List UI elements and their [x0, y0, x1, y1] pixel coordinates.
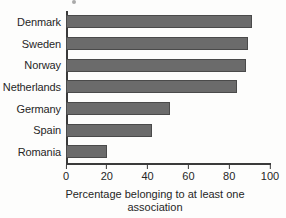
x-tick-mark: [229, 165, 230, 169]
bar-spain: [66, 124, 152, 137]
x-axis-title-line2: association: [40, 201, 270, 214]
x-tick-80: 80: [223, 165, 235, 182]
x-tick-20: 20: [101, 165, 113, 182]
x-tick-label: 60: [182, 170, 194, 182]
x-tick-label: 20: [101, 170, 113, 182]
x-axis-ticks: 0 20 40 60 80 100: [66, 165, 270, 185]
y-tick-label-norway: Norway: [24, 59, 61, 71]
bar-denmark: [66, 15, 252, 28]
scan-artifact: [72, 0, 76, 4]
bar-row-denmark: Denmark: [66, 11, 270, 33]
x-axis-title: Percentage belonging to at least one ass…: [40, 188, 270, 214]
x-tick-40: 40: [141, 165, 153, 182]
bar-romania: [66, 145, 107, 158]
y-tick-label-denmark: Denmark: [17, 16, 61, 28]
x-tick-label: 0: [63, 170, 69, 182]
y-tick-label-spain: Spain: [33, 124, 61, 136]
bar-row-netherlands: Netherlands: [66, 76, 270, 98]
bar-germany: [66, 102, 170, 115]
y-tick-label-romania: Romania: [18, 146, 61, 158]
bar-netherlands: [66, 80, 237, 93]
x-tick-mark: [106, 165, 107, 169]
y-tick-label-netherlands: Netherlands: [3, 81, 61, 93]
bar-row-sweden: Sweden: [66, 33, 270, 55]
plot-area: Denmark Sweden Norway Netherlands German…: [66, 11, 270, 163]
x-tick-mark: [188, 165, 189, 169]
x-tick-mark: [147, 165, 148, 169]
x-tick-mark: [269, 165, 270, 169]
bar-norway: [66, 59, 246, 72]
bar-rows: Denmark Sweden Norway Netherlands German…: [66, 11, 270, 163]
bar-sweden: [66, 37, 248, 50]
x-tick-label: 80: [223, 170, 235, 182]
bar-row-norway: Norway: [66, 54, 270, 76]
y-tick-label-germany: Germany: [16, 103, 61, 115]
bar-row-romania: Romania: [66, 141, 270, 163]
x-tick-60: 60: [182, 165, 194, 182]
y-tick-label-sweden: Sweden: [22, 38, 61, 50]
x-tick-0: 0: [63, 165, 69, 182]
bar-row-germany: Germany: [66, 98, 270, 120]
x-tick-100: 100: [261, 165, 279, 182]
x-tick-mark: [66, 165, 67, 169]
chart-figure: Denmark Sweden Norway Netherlands German…: [0, 0, 286, 218]
x-tick-label: 100: [261, 170, 279, 182]
bar-row-spain: Spain: [66, 119, 270, 141]
x-tick-label: 40: [141, 170, 153, 182]
x-axis-title-line1: Percentage belonging to at least one: [65, 188, 244, 200]
